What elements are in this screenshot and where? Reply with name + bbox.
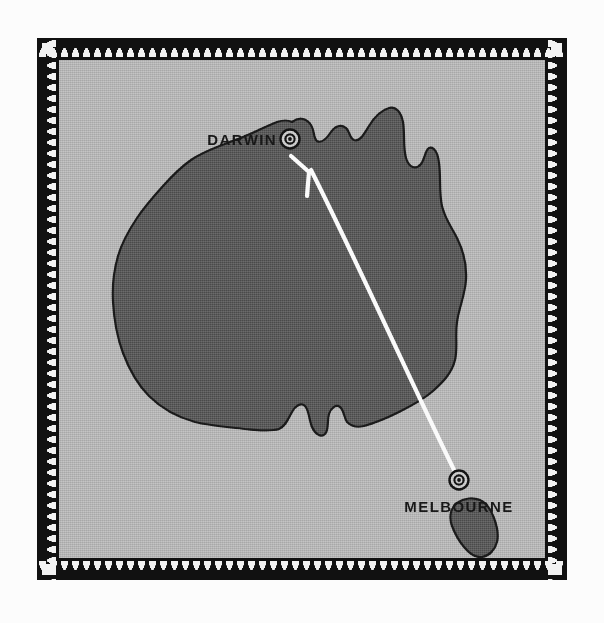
map-plate: DARWIN MELBOURNE — [59, 60, 545, 558]
map-poster: DARWIN MELBOURNE — [0, 0, 604, 623]
marker-darwin[interactable] — [281, 130, 300, 149]
border-teeth-right — [545, 38, 567, 580]
border-teeth-top — [37, 38, 567, 60]
corner-square-top-left — [42, 43, 53, 54]
marker-melbourne[interactable] — [450, 471, 469, 490]
decorative-frame: DARWIN MELBOURNE — [37, 38, 567, 580]
border-teeth-bottom — [37, 558, 567, 580]
city-label-darwin: DARWIN — [207, 131, 277, 148]
city-label-melbourne: MELBOURNE — [404, 498, 513, 515]
corner-square-bottom-left — [42, 564, 53, 575]
corner-square-bottom-right — [551, 564, 562, 575]
border-teeth-left — [37, 38, 59, 580]
australia-map-graphic: DARWIN MELBOURNE — [59, 60, 545, 558]
corner-square-top-right — [551, 43, 562, 54]
